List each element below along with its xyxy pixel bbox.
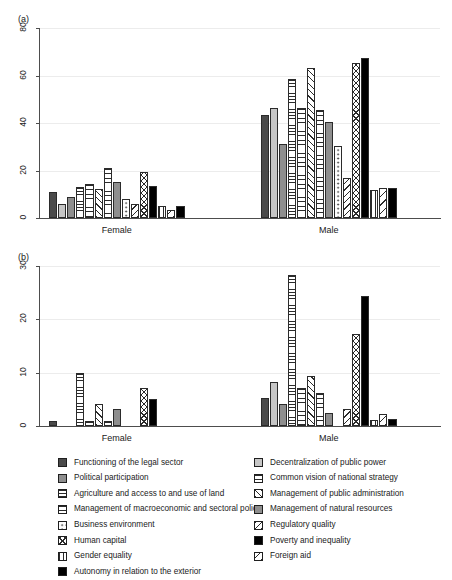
group-label-male: Male — [241, 225, 417, 235]
legend-item[interactable]: Decentralization of public power — [254, 455, 404, 471]
bar — [279, 144, 287, 218]
bar — [149, 399, 157, 426]
y-tick-label: 0 — [18, 416, 28, 434]
bar — [343, 409, 351, 426]
legend-item-label: Poverty and inequality — [270, 537, 351, 545]
legend-item[interactable]: Management of public administration — [254, 486, 404, 502]
bar — [85, 184, 93, 218]
legend-item[interactable]: Regulatory quality — [254, 517, 404, 533]
bar — [352, 334, 360, 426]
gridline — [40, 171, 440, 172]
bar — [388, 419, 396, 426]
bar — [388, 188, 396, 218]
bar — [49, 192, 57, 218]
bar — [131, 204, 139, 218]
legend-item-label: Agriculture and access to and use of lan… — [74, 490, 224, 498]
legend-item[interactable]: Agriculture and access to and use of lan… — [58, 486, 261, 502]
bar — [149, 186, 157, 218]
bar — [95, 189, 103, 218]
gridline — [40, 123, 440, 124]
bar — [140, 172, 148, 218]
bar — [261, 115, 269, 218]
bar — [370, 420, 378, 426]
legend-swatch-icon — [254, 536, 263, 545]
legend-item-label: Functioning of the legal sector — [74, 459, 183, 467]
legend-item[interactable]: Management of natural resources — [254, 502, 404, 518]
bar — [158, 206, 166, 218]
bar — [288, 79, 296, 218]
legend-item-label: Business environment — [74, 521, 155, 529]
bar — [361, 296, 369, 426]
legend-swatch-icon — [58, 505, 67, 514]
legend-swatch-icon — [254, 458, 263, 467]
legend-swatch-icon — [254, 489, 263, 498]
legend-item[interactable]: Political participation — [58, 471, 261, 487]
y-tick-label: 60 — [18, 66, 28, 84]
bar — [325, 122, 333, 218]
legend-item-label: Autonomy in relation to the exterior — [74, 568, 201, 576]
legend-item-label: Management of public administration — [270, 490, 404, 498]
bar — [104, 168, 112, 218]
y-tick-label: 40 — [18, 113, 28, 131]
bar — [270, 108, 278, 218]
panel-b: (b) 0102030FemaleMale — [0, 252, 452, 452]
legend-item[interactable]: Common vision of national strategy — [254, 471, 404, 487]
legend-swatch-icon — [254, 552, 263, 561]
legend-item-label: Gender equality — [74, 552, 132, 560]
bar — [85, 421, 93, 426]
bar — [113, 182, 121, 218]
legend-item[interactable]: Gender equality — [58, 549, 261, 565]
bar — [49, 421, 57, 426]
bar — [307, 376, 315, 426]
y-tick-label: 20 — [18, 309, 28, 327]
y-tick-label: 20 — [18, 161, 28, 179]
legend-swatch-icon — [58, 536, 67, 545]
legend-swatch-icon — [254, 474, 263, 483]
legend-item-label: Management of macroeconomic and sectoral… — [74, 505, 261, 513]
legend: Functioning of the legal sectorPolitical… — [0, 455, 452, 574]
panel-a-plot-area: 020406080FemaleMale — [40, 28, 440, 218]
bar — [343, 178, 351, 218]
gridline — [40, 373, 440, 374]
bar — [379, 188, 387, 218]
bar — [307, 68, 315, 218]
bar — [122, 199, 130, 218]
group-label-female: Female — [29, 225, 205, 235]
y-tick-label: 80 — [18, 18, 28, 36]
bar — [361, 58, 369, 218]
legend-swatch-icon — [254, 521, 263, 530]
bar — [297, 108, 305, 218]
legend-item[interactable]: Business environment — [58, 517, 261, 533]
bar — [352, 63, 360, 218]
legend-swatch-icon — [58, 552, 67, 561]
legend-item-label: Decentralization of public power — [270, 459, 386, 467]
legend-item-label: Human capital — [74, 537, 126, 545]
legend-item-label: Foreign aid — [270, 552, 311, 560]
bar — [297, 388, 305, 426]
gridline — [40, 319, 440, 320]
bar — [67, 197, 75, 218]
legend-item-label: Regulatory quality — [270, 521, 336, 529]
bar — [279, 404, 287, 426]
bar — [113, 409, 121, 426]
bar — [261, 398, 269, 426]
legend-item-label: Management of natural resources — [270, 505, 392, 513]
legend-item[interactable]: Autonomy in relation to the exterior — [58, 564, 261, 580]
legend-item[interactable]: Human capital — [58, 533, 261, 549]
legend-item[interactable]: Management of macroeconomic and sectoral… — [58, 502, 261, 518]
bar — [316, 393, 324, 426]
legend-swatch-icon — [58, 521, 67, 530]
bar — [76, 373, 84, 426]
legend-item[interactable]: Foreign aid — [254, 549, 404, 565]
panel-b-plot-area: 0102030FemaleMale — [40, 266, 440, 426]
legend-swatch-icon — [58, 474, 67, 483]
legend-item[interactable]: Functioning of the legal sector — [58, 455, 261, 471]
legend-item[interactable]: Poverty and inequality — [254, 533, 404, 549]
y-axis-line — [39, 28, 40, 218]
gridline — [40, 76, 440, 77]
y-tick-label: 0 — [18, 208, 28, 226]
y-tick-label: 30 — [18, 256, 28, 274]
gridline — [40, 28, 440, 29]
bar — [95, 404, 103, 426]
legend-item-label: Political participation — [74, 474, 149, 482]
